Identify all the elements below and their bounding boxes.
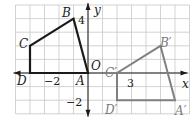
y-axis-arrow-up-icon [86,3,91,10]
x-axis-label: x [182,77,189,91]
x-axis-arrow-right-icon [181,71,188,76]
vertex-label-a-prime: A′ [174,104,187,118]
vertex-label-a: A [75,74,85,88]
coordinate-plane: y x O 4 −2 −2 3 A B C D A′ B′ C′ D′ [0,0,195,122]
tick-label-x-3: 3 [127,77,134,90]
vertex-label-c-prime: C′ [105,66,117,80]
tick-label-x-neg2: −2 [44,75,60,88]
vertex-label-d: D [16,74,27,88]
y-axis-label: y [93,3,101,17]
tick-label-y-neg2: −2 [66,96,82,109]
origin-label: O [91,59,101,73]
vertex-label-b: B [61,6,71,20]
tick-label-y-4: 4 [78,14,85,27]
y-axis-arrow-down-icon [86,110,91,117]
vertex-label-d-prime: D′ [104,103,118,117]
vertex-label-c: C [19,37,28,51]
vertex-label-b-prime: B′ [159,36,172,50]
